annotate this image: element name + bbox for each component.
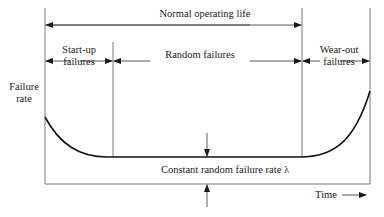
random-label: Random failures	[150, 49, 250, 61]
startup-label-line1: Start-up	[46, 44, 112, 56]
startup-label-line2: failures	[46, 56, 112, 68]
y-axis-label: Failure rate	[6, 81, 42, 105]
wearout-label-line2: failures	[314, 56, 364, 68]
bathtub-curve-diagram	[0, 0, 384, 217]
normal-life-label: Normal operating life	[140, 8, 270, 20]
wearout-label-line1: Wear-out	[314, 44, 364, 56]
startup-label: Start-up failures	[46, 44, 112, 68]
constant-rate-label: Constant random failure rate λ	[140, 164, 310, 176]
x-axis-label: Time	[312, 189, 340, 201]
failure-rate-curve	[45, 91, 370, 157]
wearout-label: Wear-out failures	[314, 44, 364, 68]
